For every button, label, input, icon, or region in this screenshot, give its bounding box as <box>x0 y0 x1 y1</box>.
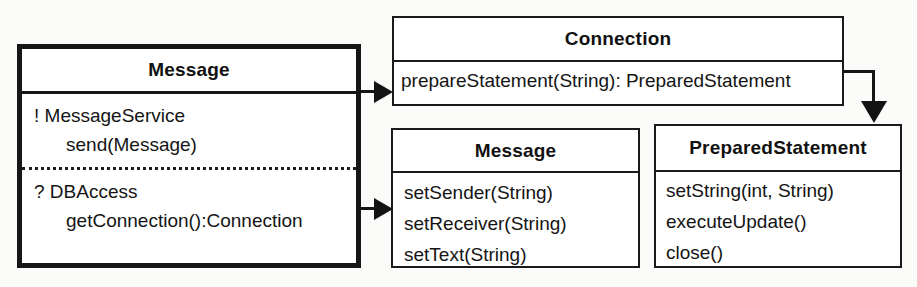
class-title-message-bottom: Message <box>393 130 638 171</box>
class-title-connection: Connection <box>394 18 842 60</box>
connector-line-connection-to-prepared-horizontal <box>843 70 875 73</box>
compartment-prepared-statement-methods: setString(int, String) executeUpdate() c… <box>656 170 900 268</box>
class-title-message-left: Message <box>22 49 356 91</box>
member-close: close() <box>666 237 900 268</box>
role-marker-message-service: ! MessageService <box>22 101 356 130</box>
uml-class-diagram: Message ! MessageService send(Message) ?… <box>0 0 917 287</box>
arrow-head-icon-message-to-connection <box>374 81 393 103</box>
member-set-sender: setSender(String) <box>404 177 638 208</box>
member-set-receiver: setReceiver(String) <box>404 208 638 239</box>
arrow-head-icon-message-to-message <box>374 198 393 220</box>
arrow-head-icon-connection-to-prepared <box>861 101 887 123</box>
member-set-text: setText(String) <box>404 239 638 270</box>
class-title-prepared-statement: PreparedStatement <box>656 126 900 170</box>
compartment-message-methods: setSender(String) setReceiver(String) se… <box>393 171 638 270</box>
compartment-db-access: ? DBAccess getConnection():Connection <box>22 167 356 243</box>
class-box-prepared-statement[interactable]: PreparedStatement setString(int, String)… <box>654 124 902 268</box>
connector-line-connection-to-prepared-vertical <box>872 70 875 104</box>
compartment-connection-methods: prepareStatement(String): PreparedStatem… <box>394 60 842 96</box>
class-box-connection[interactable]: Connection prepareStatement(String): Pre… <box>392 16 844 106</box>
member-prepare-statement: prepareStatement(String): PreparedStatem… <box>401 66 842 96</box>
role-marker-db-access: ? DBAccess <box>22 177 356 206</box>
class-box-message-left[interactable]: Message ! MessageService send(Message) ?… <box>17 44 361 268</box>
member-send-message: send(Message) <box>22 130 356 159</box>
class-box-message-bottom[interactable]: Message setSender(String) setReceiver(St… <box>391 128 640 268</box>
member-execute-update: executeUpdate() <box>666 206 900 237</box>
member-get-connection: getConnection():Connection <box>22 206 356 235</box>
member-set-string: setString(int, String) <box>666 175 900 206</box>
compartment-message-service: ! MessageService send(Message) <box>22 91 356 167</box>
